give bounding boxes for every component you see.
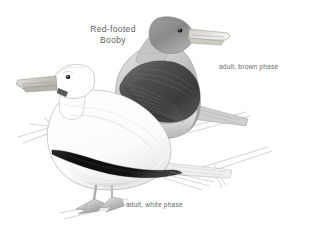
label-adult-white-phase: adult, white phase	[126, 201, 183, 209]
white-booby-feet	[76, 186, 124, 214]
brown-booby-eye	[178, 28, 183, 32]
brown-booby-head	[149, 17, 193, 54]
label-adult-brown-phase: adult, brown phase	[219, 63, 278, 71]
brown-booby-tail	[192, 105, 248, 126]
white-booby-eye	[66, 75, 71, 79]
page-title: Red-footed Booby	[74, 24, 152, 46]
title-line-2: Booby	[100, 35, 126, 45]
title-line-1: Red-footed	[90, 24, 136, 34]
illustration-plate: Red-footed Booby adult, brown phase adul…	[0, 0, 309, 237]
